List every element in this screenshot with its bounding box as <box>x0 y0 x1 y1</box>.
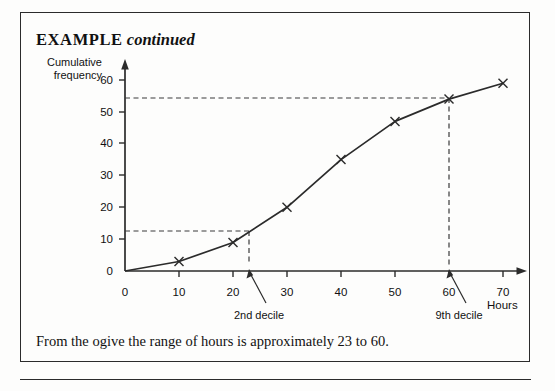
y-tick-label: 60 <box>100 74 113 86</box>
x-tick-label: 0 <box>122 286 128 298</box>
figure-page: EXAMPLE continued Cumulative frequency H… <box>0 0 555 391</box>
x-tick-label: 20 <box>227 286 240 298</box>
x-tick-label: 40 <box>335 286 348 298</box>
guide-lines-group <box>125 98 449 265</box>
y-tick-label: 10 <box>100 233 113 245</box>
y-tick-label: 0 <box>107 265 113 277</box>
x-tick-label: 10 <box>173 286 186 298</box>
y-tick-label: 40 <box>100 137 113 149</box>
ogive-curve-group <box>125 83 503 271</box>
y-tick-group: 60 50 40 30 20 10 0 <box>100 74 125 277</box>
y-tick-label: 50 <box>100 106 113 118</box>
data-point-marker <box>229 238 238 247</box>
y-tick-label: 30 <box>100 169 113 181</box>
x-tick-label: 70 <box>497 286 510 298</box>
annotation-label-2nd-decile: 2nd decile <box>234 309 284 321</box>
data-point-markers-group <box>175 79 508 266</box>
data-point-marker <box>499 79 508 88</box>
x-axis-arrowhead-icon <box>517 267 528 275</box>
data-point-marker <box>391 117 400 126</box>
figure-caption: From the ogive the range of hours is app… <box>36 333 389 350</box>
x-tick-label: 50 <box>389 286 402 298</box>
x-tick-label: 60 <box>443 286 456 298</box>
data-point-marker <box>283 203 292 212</box>
y-tick-label: 20 <box>100 201 113 213</box>
data-point-marker <box>337 155 346 164</box>
ogive-curve-line <box>125 83 503 271</box>
annotation-label-9th-decile: 9th decile <box>435 309 482 321</box>
y-axis-arrowhead-icon <box>121 59 129 70</box>
annotation-leader-2nd-decile <box>251 275 266 303</box>
axis-group <box>121 59 527 275</box>
x-tick-label: 30 <box>281 286 294 298</box>
